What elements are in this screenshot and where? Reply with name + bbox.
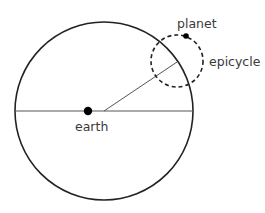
diagram-svg: planet epicycle earth [0, 0, 265, 213]
earth-label: earth [75, 119, 108, 134]
earth-dot [84, 107, 92, 115]
epicycle-diagram: planet epicycle earth [0, 0, 265, 213]
planet-dot [183, 33, 189, 39]
epicycle-label: epicycle [209, 54, 261, 69]
radius-line [104, 62, 177, 111]
planet-label: planet [177, 16, 217, 31]
